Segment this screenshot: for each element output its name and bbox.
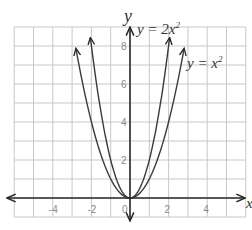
x-tick-label: 4 <box>203 204 209 215</box>
y-tick-label: 2 <box>121 155 127 166</box>
x-axis-label: x <box>245 195 252 211</box>
legend-label-x2: y = x2 <box>185 54 223 71</box>
parabola-chart: -4-20242468 y x y = 2x2 y = x2 <box>0 0 252 230</box>
y-tick-label: 4 <box>121 117 127 128</box>
x-tick-label: -2 <box>87 204 96 215</box>
legend-label-2x2: y = 2x2 <box>135 20 180 37</box>
y-tick-label: 6 <box>121 79 127 90</box>
y-axis-label: y <box>122 6 132 26</box>
x-tick-label: 0 <box>122 204 128 215</box>
y-tick-label: 8 <box>121 41 127 52</box>
x-tick-label: -4 <box>49 204 58 215</box>
x-tick-label: 2 <box>165 204 171 215</box>
tick-labels: -4-20242468 <box>49 41 209 215</box>
